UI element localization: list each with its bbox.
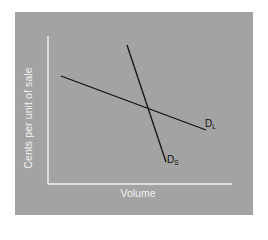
long-run-demand-curve xyxy=(61,76,206,130)
short-run-demand-label: DS xyxy=(167,155,179,167)
long-run-demand-label: DL xyxy=(205,119,216,131)
curve-subscript: S xyxy=(174,159,178,166)
x-axis-label: Volume xyxy=(120,187,155,199)
y-axis-label: Cents per unit of sale xyxy=(22,67,34,168)
short-run-demand-curve xyxy=(127,45,166,162)
curve-subscript: L xyxy=(212,123,216,130)
